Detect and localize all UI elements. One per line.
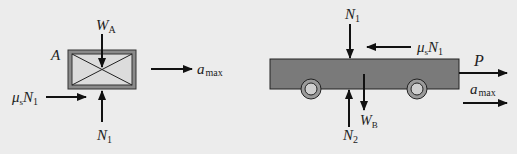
friction-b-label: μsN1 [416,39,443,57]
friction-a-label: μsN1 [11,89,38,107]
wheel-right [407,79,427,99]
weight-b-label: WB [360,113,378,130]
wheel-left [301,79,321,99]
free-body-diagram: A WA N1 μsN1 amax N1 μsN1 [0,0,517,154]
weight-a-label: WA [96,17,117,35]
accel-b-label: amax [470,81,496,98]
normal-a-label: N1 [96,127,112,145]
accel-a-label: amax [197,61,223,78]
normal-top-b-label: N1 [344,6,360,24]
normal-bottom-b-label: N2 [342,127,358,145]
block-a-label: A [50,47,61,63]
pull-force-label: P [473,52,484,69]
